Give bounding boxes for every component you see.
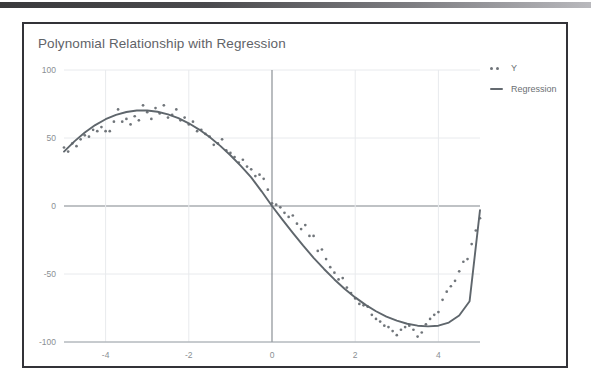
data-point: [275, 203, 278, 206]
x-axis-tick-label: 0: [270, 350, 275, 360]
data-point: [296, 222, 299, 225]
y-axis-tick-label: -100: [39, 337, 56, 347]
data-point: [92, 128, 95, 131]
x-axis-tick-label: -2: [185, 350, 193, 360]
legend-line-marker-icon: [490, 88, 506, 91]
data-point: [258, 173, 261, 176]
data-point: [287, 216, 290, 219]
data-point: [308, 235, 311, 238]
data-point: [142, 104, 145, 107]
data-point: [375, 318, 378, 321]
data-point: [283, 211, 286, 214]
data-point: [196, 130, 199, 133]
data-point: [433, 313, 436, 316]
data-point: [462, 260, 465, 263]
data-point: [154, 107, 157, 110]
data-point: [387, 326, 390, 329]
data-point: [395, 334, 398, 337]
y-axis-tick-label: 100: [42, 65, 56, 75]
data-point: [450, 285, 453, 288]
data-point: [445, 290, 448, 293]
data-point: [300, 228, 303, 231]
data-point: [341, 277, 344, 280]
legend-dots-marker-icon: [490, 67, 506, 70]
y-axis-tick-label: 50: [47, 133, 57, 143]
chart-panel: Polynomial Relationship with Regression …: [22, 22, 568, 368]
chart-plot-area: 100500-50-100-4-2024: [24, 24, 570, 370]
data-point: [183, 116, 186, 119]
data-point: [329, 266, 332, 269]
data-point: [108, 130, 111, 133]
data-point: [121, 120, 124, 123]
data-point: [441, 298, 444, 301]
data-point: [96, 130, 99, 133]
data-point: [113, 120, 116, 123]
data-point: [337, 278, 340, 281]
data-point: [304, 224, 307, 227]
data-point: [221, 138, 224, 141]
data-point: [175, 108, 178, 111]
data-point: [429, 318, 432, 321]
data-point: [88, 135, 91, 138]
data-point: [79, 138, 82, 141]
data-point: [291, 214, 294, 217]
data-point: [416, 335, 419, 338]
data-point: [383, 324, 386, 327]
x-axis-tick-label: -4: [102, 350, 110, 360]
data-point: [458, 270, 461, 273]
y-axis-tick-label: 0: [51, 201, 56, 211]
data-point: [100, 126, 103, 129]
legend-label-y: Y: [511, 63, 517, 73]
data-point: [379, 320, 382, 323]
data-point: [312, 235, 315, 238]
data-point: [167, 116, 170, 119]
data-point: [321, 248, 324, 251]
data-point: [404, 326, 407, 329]
data-point: [63, 146, 66, 149]
data-point: [420, 331, 423, 334]
data-point: [266, 188, 269, 191]
data-point: [150, 118, 153, 121]
data-point: [192, 120, 195, 123]
data-point: [325, 258, 328, 261]
data-point: [254, 175, 257, 178]
data-point: [466, 258, 469, 261]
legend-item-y[interactable]: Y: [490, 60, 568, 76]
x-axis-tick-label: 2: [353, 350, 358, 360]
x-axis-tick-label: 4: [436, 350, 441, 360]
data-point: [358, 303, 361, 306]
data-point: [242, 158, 245, 161]
data-point: [138, 119, 141, 122]
data-point: [412, 328, 415, 331]
data-point: [279, 206, 282, 209]
data-point: [67, 150, 70, 153]
data-point: [246, 165, 249, 168]
window-top-bar: [0, 2, 591, 8]
data-point: [391, 330, 394, 333]
data-point: [437, 311, 440, 314]
y-axis-tick-label: -50: [44, 269, 57, 279]
data-point: [212, 143, 215, 146]
legend-item-regression[interactable]: Regression: [490, 81, 568, 97]
data-point: [75, 145, 78, 148]
data-point: [125, 118, 128, 121]
data-point: [262, 177, 265, 180]
data-point: [250, 168, 253, 171]
chart-legend: Y Regression: [490, 60, 568, 102]
data-point: [400, 328, 403, 331]
data-point: [470, 243, 473, 246]
data-point: [346, 286, 349, 289]
data-point: [104, 130, 107, 133]
data-point: [133, 115, 136, 118]
data-point: [162, 104, 165, 107]
legend-label-regression: Regression: [511, 84, 557, 94]
data-point: [454, 279, 457, 282]
data-point: [370, 313, 373, 316]
data-point: [316, 250, 319, 253]
data-point: [333, 271, 336, 274]
data-point: [117, 108, 120, 111]
data-point: [129, 123, 132, 126]
